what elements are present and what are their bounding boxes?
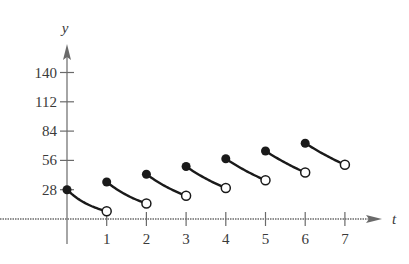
y-tick-label: 56 — [42, 152, 58, 168]
open-point-icon — [102, 207, 111, 216]
labels: 2856841121401234567yt — [35, 20, 398, 247]
open-point-icon — [221, 184, 230, 193]
y-axis-label: y — [60, 20, 69, 36]
closed-point-icon — [142, 170, 151, 179]
open-point-icon — [182, 191, 191, 200]
open-point-icon — [142, 199, 151, 208]
curve-segment — [107, 182, 147, 204]
x-axis-label: t — [392, 211, 397, 227]
x-tick-label: 1 — [103, 231, 111, 247]
x-tick-label: 6 — [301, 231, 309, 247]
closed-point-icon — [102, 177, 111, 186]
x-tick-label: 7 — [341, 231, 349, 247]
curves — [63, 139, 350, 216]
closed-point-icon — [261, 146, 270, 155]
closed-point-icon — [63, 185, 72, 194]
open-point-icon — [340, 160, 349, 169]
curve-segment — [305, 143, 345, 165]
ticks — [60, 73, 345, 227]
chart: 2856841121401234567yt — [0, 0, 409, 264]
curve-segment — [266, 151, 306, 173]
x-tick-label: 3 — [182, 231, 190, 247]
curve-segment — [186, 166, 226, 188]
curve-segment — [67, 190, 107, 212]
y-tick-label: 84 — [42, 123, 58, 139]
closed-point-icon — [182, 162, 191, 171]
y-tick-label: 28 — [42, 182, 57, 198]
x-tick-label: 4 — [222, 231, 230, 247]
open-point-icon — [301, 168, 310, 177]
closed-point-icon — [221, 154, 230, 163]
x-tick-label: 2 — [143, 231, 151, 247]
open-point-icon — [261, 176, 270, 185]
x-tick-label: 5 — [262, 231, 270, 247]
curve-segment — [226, 159, 266, 181]
closed-point-icon — [301, 139, 310, 148]
curve-segment — [146, 174, 186, 196]
y-tick-label: 112 — [35, 94, 57, 110]
axes — [0, 44, 382, 244]
y-tick-label: 140 — [35, 65, 58, 81]
